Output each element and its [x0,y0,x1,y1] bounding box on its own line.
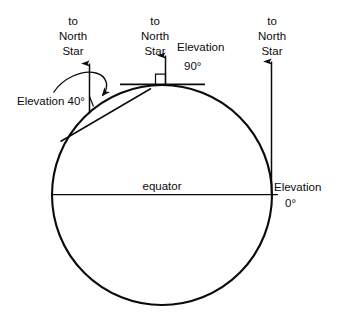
star-label-40-line3: Star [62,45,83,57]
star-label-0-line1: to [267,15,277,27]
star-label-90-line1: to [150,15,160,27]
equator-label: equator [142,180,181,192]
star-label-90-line3: Star [144,45,165,57]
elevation-label-40: Elevation 40° [17,95,85,107]
earth-north-star-elevation-diagram: to North Star Elevation 40° to North Sta… [0,0,339,322]
elevation-label-0-line2: 0° [285,197,296,209]
star-label-0-line3: Star [261,45,282,57]
star-label-40-line1: to [68,15,78,27]
star-label-90-line2: North [141,30,169,42]
star-label-0-line2: North [258,30,286,42]
star-label-40-line2: North [59,30,87,42]
elevation-label-90-line1: Elevation [177,41,224,53]
elevation-label-0-line1: Elevation [274,181,321,193]
right-angle-marker-90 [156,74,166,84]
diagram-canvas: to North Star Elevation 40° to North Sta… [0,0,339,322]
elevation-angle-arc-40 [54,72,107,95]
elevation-label-90-line2: 90° [184,60,201,72]
